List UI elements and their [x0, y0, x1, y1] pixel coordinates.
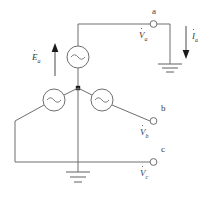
terminal-label-c: c — [161, 145, 165, 154]
phasor-label-vb: Vb — [140, 128, 149, 139]
ac-source-a — [67, 46, 89, 68]
ground-symbol-neutral — [66, 172, 90, 182]
terminal-node-c[interactable] — [150, 159, 157, 166]
current-label-ia: Ia — [192, 32, 198, 43]
current-ia-sub: a — [195, 37, 198, 43]
terminal-label-a: a — [152, 7, 156, 16]
terminal-node-b[interactable] — [150, 118, 157, 125]
emf-ea-base: E — [32, 52, 38, 62]
ac-source-c — [43, 89, 65, 111]
ground-symbol-right — [158, 64, 182, 72]
current-ia-base: I — [192, 31, 195, 41]
wire-node-to-source-b — [78, 88, 92, 95]
terminal-label-b: b — [161, 104, 166, 113]
overdot-icon-vb — [142, 125, 144, 127]
wire-source-b-out — [112, 105, 150, 121]
overdot-icon-ea — [34, 50, 36, 52]
overdot-icon-va — [141, 28, 143, 30]
phasor-va-base: V — [139, 30, 145, 40]
terminal-node-a[interactable] — [150, 21, 157, 28]
circuit-diagram: a b c Va Vb Vc Ea Ia — [0, 0, 210, 200]
emf-direction-arrow — [52, 43, 59, 76]
phasor-label-va: Va — [139, 31, 148, 42]
overdot-icon-vc — [142, 166, 144, 168]
emf-label-ea: Ea — [32, 53, 41, 64]
wire-node-to-source-c — [64, 88, 78, 95]
phasor-vc-base: V — [140, 168, 146, 178]
overdot-icon-ia — [193, 29, 195, 31]
wire-source-c-out — [15, 105, 44, 121]
phasor-vb-base: V — [140, 127, 146, 137]
ac-source-b — [91, 89, 113, 111]
phasor-label-vc: Vc — [140, 169, 148, 180]
current-direction-arrow — [183, 26, 190, 59]
circuit-svg — [0, 0, 210, 200]
